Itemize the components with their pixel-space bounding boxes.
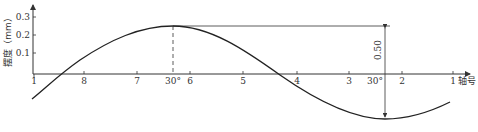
x-tick-6: 6: [187, 76, 193, 86]
x-tick-3: 3: [346, 76, 352, 86]
x-axis-label: 轴号: [458, 75, 476, 86]
x-tick-5: 5: [240, 76, 246, 86]
x-tick-1-end: 1: [450, 76, 456, 86]
x-tick-1-start: 1: [31, 76, 37, 86]
min-angle-label: 30°: [367, 76, 383, 86]
x-tick-2: 2: [399, 76, 405, 86]
y-axis-label: 摆度（mm）: [2, 13, 13, 67]
max-angle-label: 30°: [165, 76, 181, 86]
x-tick-7: 7: [134, 76, 140, 86]
x-tick-8: 8: [81, 76, 87, 86]
swing-curve: [32, 26, 450, 119]
amplitude-label: 0.50: [373, 40, 383, 60]
y-tick-0.3: 0.3: [16, 12, 31, 22]
y-tick-0.2: 0.2: [16, 30, 30, 40]
swing-chart: 0.3 0.2 0.1 摆度（mm） 1 8 7 6 5 4 3 2 1 轴号 …: [0, 0, 478, 132]
y-tick-0.1: 0.1: [16, 48, 30, 58]
